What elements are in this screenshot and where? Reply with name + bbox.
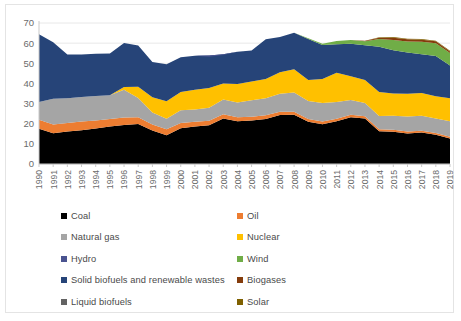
- x-tick-label: 2004: [233, 170, 243, 189]
- x-tick-label: 2007: [275, 170, 285, 189]
- x-tick-label: 2019: [445, 170, 455, 189]
- stacked-area-chart: 0102030405060701990199119921993199419951…: [6, 5, 455, 201]
- legend-item-oil[interactable]: Oil: [237, 205, 417, 227]
- y-tick-label: 30: [23, 98, 34, 109]
- x-tick-label: 2000: [176, 170, 186, 189]
- x-tick-label: 2002: [204, 170, 214, 189]
- x-tick-label: 2009: [304, 170, 314, 189]
- y-tick-label: 40: [23, 78, 34, 89]
- legend-label-natural-gas: Natural gas: [71, 232, 120, 242]
- legend-swatch-biogases: [237, 277, 243, 283]
- legend-swatch-solid-biofuels: [61, 277, 67, 283]
- x-tick-label: 2015: [389, 170, 399, 189]
- y-tick-label: 70: [23, 17, 34, 28]
- legend-item-wind[interactable]: Wind: [237, 248, 417, 270]
- y-tick-label: 10: [23, 138, 34, 149]
- legend-label-solid-biofuels: Solid biofuels and renewable wastes: [71, 275, 225, 285]
- x-tick-label: 1993: [77, 170, 87, 189]
- legend-item-solid-biofuels[interactable]: Solid biofuels and renewable wastes: [61, 270, 241, 292]
- x-tick-label: 2016: [403, 170, 413, 189]
- x-tick-label: 1997: [134, 170, 144, 189]
- legend-label-biogases: Biogases: [247, 275, 286, 285]
- legend-swatch-hydro: [61, 256, 67, 262]
- legend-swatch-wind: [237, 256, 243, 262]
- x-tick-label: 2014: [375, 170, 385, 189]
- x-tick-label: 2001: [190, 170, 200, 189]
- x-tick-label: 1996: [119, 170, 129, 189]
- legend-item-liquid-biofuels[interactable]: Liquid biofuels: [61, 291, 241, 313]
- legend-label-hydro: Hydro: [71, 254, 96, 264]
- legend-label-liquid-biofuels: Liquid biofuels: [71, 297, 132, 307]
- x-tick-label: 1999: [162, 170, 172, 189]
- x-tick-label: 2008: [290, 170, 300, 189]
- y-tick-label: 0: [29, 158, 34, 169]
- legend-swatch-nuclear: [237, 234, 243, 240]
- x-tick-label: 2005: [247, 170, 257, 189]
- x-tick-label: 1998: [148, 170, 158, 189]
- plot-area: 0102030405060701990199119921993199419951…: [6, 5, 455, 201]
- legend-label-oil: Oil: [247, 211, 259, 221]
- legend-swatch-coal: [61, 213, 67, 219]
- y-tick-label: 60: [23, 38, 34, 49]
- legend-label-wind: Wind: [247, 254, 269, 264]
- legend-swatch-natural-gas: [61, 234, 67, 240]
- x-tick-label: 1995: [105, 170, 115, 189]
- x-tick-label: 2013: [360, 170, 370, 189]
- legend-label-nuclear: Nuclear: [247, 232, 280, 242]
- legend-item-natural-gas[interactable]: Natural gas: [61, 227, 241, 249]
- legend-item-coal[interactable]: Coal: [61, 205, 241, 227]
- x-tick-label: 1994: [91, 170, 101, 189]
- x-tick-label: 2017: [417, 170, 427, 189]
- legend-swatch-liquid-biofuels: [61, 299, 67, 305]
- x-tick-label: 2010: [318, 170, 328, 189]
- x-tick-label: 2012: [346, 170, 356, 189]
- legend-column-left: Coal Natural gas Hydro Solid biofuels an…: [61, 205, 241, 313]
- legend-item-hydro[interactable]: Hydro: [61, 248, 241, 270]
- x-tick-label: 2011: [332, 170, 342, 189]
- x-tick-label: 1992: [63, 170, 73, 189]
- legend-swatch-solar: [237, 299, 243, 305]
- chart-card: 0102030405060701990199119921993199419951…: [5, 4, 454, 313]
- legend-item-biogases[interactable]: Biogases: [237, 270, 417, 292]
- x-tick-label: 2006: [261, 170, 271, 189]
- y-tick-label: 50: [23, 58, 34, 69]
- x-tick-label: 1991: [49, 170, 59, 189]
- chart-legend: Coal Natural gas Hydro Solid biofuels an…: [6, 201, 455, 313]
- legend-swatch-oil: [237, 213, 243, 219]
- legend-label-solar: Solar: [247, 297, 269, 307]
- y-tick-label: 20: [23, 118, 34, 129]
- legend-item-solar[interactable]: Solar: [237, 291, 417, 313]
- x-tick-label: 2003: [219, 170, 229, 189]
- legend-column-right: Oil Nuclear Wind Biogases Solar: [237, 205, 417, 313]
- x-tick-label: 2018: [431, 170, 441, 189]
- legend-item-nuclear[interactable]: Nuclear: [237, 227, 417, 249]
- legend-label-coal: Coal: [71, 211, 91, 221]
- x-tick-label: 1990: [34, 170, 44, 189]
